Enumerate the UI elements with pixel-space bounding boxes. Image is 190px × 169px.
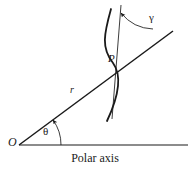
polar-axis-caption: Polar axis [0,152,190,164]
radius-label: r [70,85,74,95]
origin-label: O [8,136,17,148]
angle-theta-label: θ [43,126,48,137]
polar-coordinate-figure: O P r θ γ Polar axis [0,0,190,169]
theta-angle-arc [53,120,61,145]
figure-canvas [0,0,190,169]
point-p-label: P [108,53,115,64]
angle-gamma-label: γ [149,12,154,23]
